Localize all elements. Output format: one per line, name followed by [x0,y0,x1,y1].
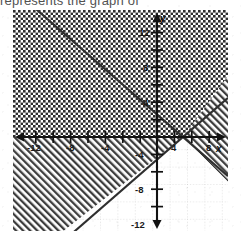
coordinate-graph: -12 -8 -4 4 8 12 8 4 -4 -8 -12 x y [13,10,228,231]
x-tick-label--4: -4 [101,143,109,153]
y-axis-label: y [160,14,166,24]
y-tick-label--8: -8 [135,185,143,195]
y-tick-label--12: -12 [131,220,145,230]
x-tick-label--12: -12 [27,143,41,153]
graph-svg [13,10,228,231]
y-tick-label-4: 4 [143,98,148,108]
y-tick-label-12: 12 [139,28,150,38]
x-tick-label-4: 4 [171,143,176,153]
x-tick-label--8: -8 [66,143,74,153]
x-axis-label: x [216,144,222,154]
x-tick-label-8: 8 [206,143,211,153]
y-tick-label--4: -4 [135,150,143,160]
y-tick-label-8: 8 [143,63,148,73]
question-prompt-text: represents the graph of [0,0,241,9]
